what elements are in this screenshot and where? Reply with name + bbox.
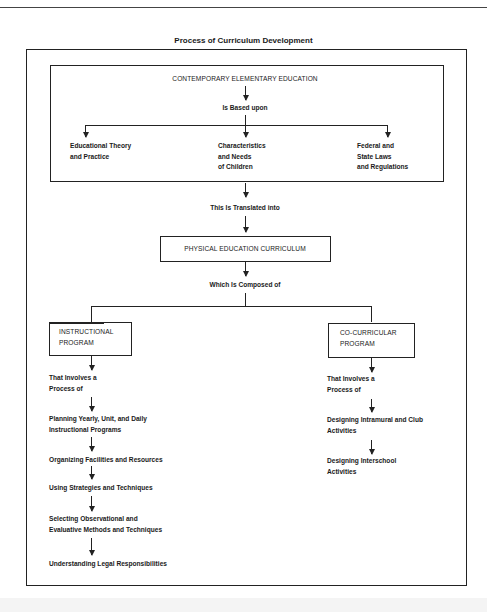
branch-line [85, 125, 387, 126]
curriculum-label: PHYSICAL EDUCATION CURRICULUM [184, 244, 306, 255]
step-strategies: Using Strategies and Techniques [49, 483, 153, 494]
step-organizing: Organizing Facilities and Resources [49, 455, 163, 466]
arrow-down-icon [245, 216, 246, 232]
connector-line [245, 115, 246, 125]
arrow-down-icon [91, 538, 92, 555]
composed-of-label: Which Is Composed of [209, 280, 280, 291]
arrow-down-icon [387, 125, 388, 137]
arrow-down-icon [91, 466, 92, 479]
connector-line [245, 293, 246, 306]
arrow-down-icon [85, 125, 86, 137]
foundation-heading: CONTEMPORARY ELEMENTARY EDUCATION [172, 74, 317, 85]
arrow-down-icon [371, 399, 372, 412]
arrow-down-icon [245, 183, 246, 197]
step-legal: Understanding Legal Responsibilities [49, 559, 167, 570]
arrow-down-icon [245, 262, 246, 276]
arrow-down-icon [371, 440, 372, 454]
translated-into-label: This Is Translated into [210, 203, 280, 214]
arrow-down-icon [91, 496, 92, 511]
step-planning: Planning Yearly, Unit, and Daily Instruc… [49, 414, 147, 435]
based-upon-label: Is Based upon [222, 103, 267, 114]
step-interschool: Designing Interschool Activities [327, 456, 396, 477]
connector-line [91, 306, 92, 322]
arrow-down-icon [245, 125, 246, 137]
step-evaluation: Selecting Observational and Evaluative M… [49, 514, 162, 535]
base-educational-theory: Educational Theory and Practice [70, 141, 131, 162]
arrow-down-icon [91, 437, 92, 451]
split-line [91, 306, 371, 307]
arrow-down-icon [91, 397, 92, 411]
step-intramural: Designing Intramural and Club Activities [327, 415, 423, 436]
top-rule [0, 7, 487, 8]
arrow-down-icon [371, 358, 372, 372]
base-federal-laws: Federal and State Laws and Regulations [357, 141, 408, 173]
instructional-involves-label: That Involves a Process of [49, 373, 97, 394]
arrow-down-icon [245, 86, 246, 100]
cocurricular-program-label: CO-CURRICULAR PROGRAM [340, 328, 397, 349]
cocurricular-involves-label: That Involves a Process of [327, 374, 375, 395]
instructional-program-label: INSTRUCTIONAL PROGRAM [59, 327, 113, 348]
diagram-title: Process of Curriculum Development [0, 36, 487, 45]
base-characteristics: Characteristics and Needs of Children [218, 141, 266, 173]
arrow-down-icon [91, 356, 92, 370]
page-bleed-area [0, 598, 487, 612]
connector-line [371, 306, 372, 322]
